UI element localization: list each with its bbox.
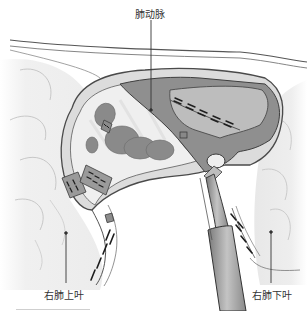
surgical-illustration: 肺动脉 右肺上叶 右肺下叶 (0, 0, 307, 311)
vessel-clip (180, 132, 187, 138)
illustration-drawing (0, 0, 307, 311)
surgical-instrument[interactable] (200, 154, 246, 311)
pulmonary-artery-label: 肺动脉 (135, 6, 165, 21)
right-lower-lobe-label: 右肺下叶 (252, 287, 292, 302)
right-upper-lobe-label: 右肺上叶 (44, 287, 84, 302)
bottom-divider (16, 309, 90, 310)
